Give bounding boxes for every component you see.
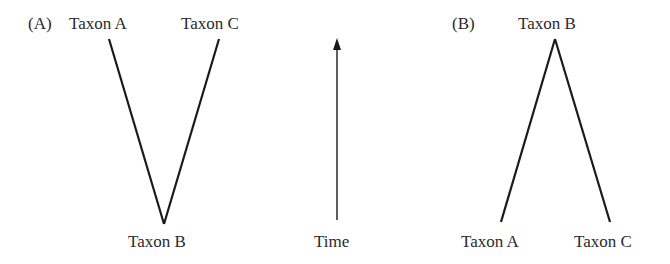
panel-a-taxon-b: Taxon B: [128, 232, 186, 252]
panel-a-tree: [109, 39, 219, 224]
diagram-canvas: [0, 0, 670, 264]
panel-b-taxon-c: Taxon C: [574, 232, 632, 252]
panel-b-tree: [501, 39, 610, 222]
time-arrow: [333, 38, 341, 220]
arrow-up-icon: [333, 38, 341, 50]
panel-a-label: (A): [28, 14, 52, 34]
panel-b-taxon-b: Taxon B: [518, 14, 576, 34]
panel-a-taxon-a: Taxon A: [69, 14, 127, 34]
branch-b-to-a: [501, 39, 555, 222]
panel-b-label: (B): [452, 14, 475, 34]
time-label: Time: [314, 232, 349, 252]
branch-c-to-b: [164, 39, 219, 224]
panel-a-taxon-c: Taxon C: [181, 14, 239, 34]
branch-b-to-c: [555, 39, 610, 222]
branch-a-to-b: [109, 39, 164, 224]
panel-b-taxon-a: Taxon A: [461, 232, 519, 252]
